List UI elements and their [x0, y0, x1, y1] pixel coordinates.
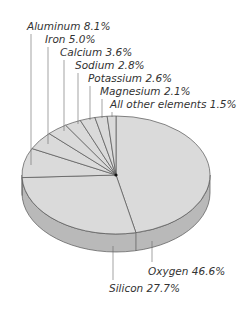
label-iron: Iron 5.0% — [45, 33, 96, 45]
label-potassium: Potassium 2.6% — [88, 72, 172, 84]
label-calcium: Calcium 3.6% — [60, 46, 132, 58]
label-all-other: All other elements 1.5% — [109, 98, 236, 110]
label-silicon: Silicon 27.7% — [109, 282, 180, 294]
label-oxygen: Oxygen 46.6% — [148, 265, 225, 277]
label-aluminum: Aluminum 8.1% — [26, 20, 110, 32]
label-sodium: Sodium 2.8% — [75, 59, 145, 71]
label-magnesium: Magnesium 2.1% — [100, 85, 191, 97]
pie-top — [22, 116, 210, 234]
pie-chart: Aluminum 8.1% Iron 5.0% Calcium 3.6% Sod… — [0, 0, 237, 310]
